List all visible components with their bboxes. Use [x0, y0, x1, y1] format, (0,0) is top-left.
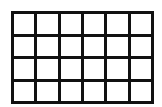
grid-cell	[37, 59, 57, 79]
grid-diagram	[11, 11, 154, 104]
grid-cell	[61, 82, 81, 102]
grid-cell	[14, 59, 34, 79]
grid-cell	[61, 59, 81, 79]
grid-cell	[14, 37, 34, 57]
grid-cell	[37, 37, 57, 57]
grid-cell	[107, 82, 127, 102]
grid-cell	[84, 82, 104, 102]
grid-cell	[37, 14, 57, 34]
grid-cell	[14, 14, 34, 34]
grid-cell	[61, 14, 81, 34]
grid-cell	[131, 37, 151, 57]
grid-cell	[37, 82, 57, 102]
grid-cell	[107, 59, 127, 79]
grid-cell	[14, 82, 34, 102]
grid-cell	[131, 14, 151, 34]
grid-cell	[84, 37, 104, 57]
grid-cell	[61, 37, 81, 57]
grid-cell	[107, 37, 127, 57]
grid-cell	[84, 59, 104, 79]
grid-cell	[84, 14, 104, 34]
grid-cell	[107, 14, 127, 34]
grid-cell	[131, 82, 151, 102]
grid-cell	[131, 59, 151, 79]
